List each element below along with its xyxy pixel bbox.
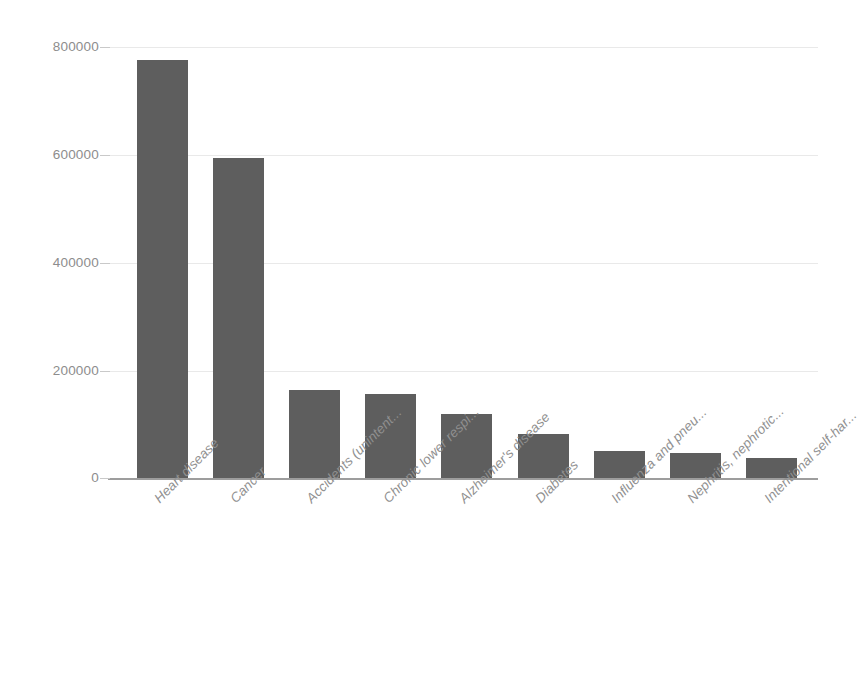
y-tick-label-400000: 400000 [53, 256, 99, 270]
y-tick-mark-200000 [100, 371, 110, 372]
gridline-600000 [108, 155, 818, 156]
y-tick-label-200000: 200000 [53, 364, 99, 378]
y-tick-mark-400000 [100, 263, 110, 264]
y-tick-mark-0 [100, 478, 110, 479]
bar-chart: 800000 600000 400000 200000 0 Heart dise… [0, 0, 860, 685]
gridline-800000 [108, 47, 818, 48]
y-tick-mark-800000 [100, 47, 110, 48]
y-tick-label-800000: 800000 [53, 40, 99, 54]
bar[interactable] [213, 158, 264, 478]
y-tick-mark-600000 [100, 155, 110, 156]
bar[interactable] [137, 60, 188, 478]
y-tick-label-0: 0 [91, 471, 99, 485]
plot-area: 800000 600000 400000 200000 0 Heart dise… [0, 0, 860, 685]
y-axis-tick-labels: 800000 600000 400000 200000 0 [0, 0, 99, 685]
y-tick-label-600000: 600000 [53, 148, 99, 162]
